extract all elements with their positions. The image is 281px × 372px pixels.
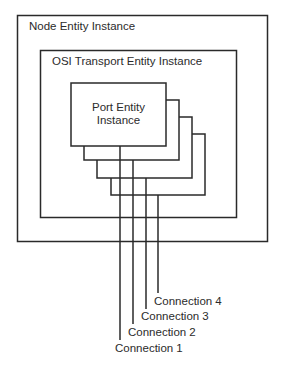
connection-label-4: Connection 4 [154, 295, 222, 307]
connection-label-2: Connection 2 [128, 326, 196, 338]
connection-label-3: Connection 3 [141, 310, 209, 322]
connection-label-1: Connection 1 [115, 342, 183, 354]
osi-transport-label: OSI Transport Entity Instance [52, 55, 202, 67]
node-entity-label: Node Entity Instance [29, 20, 135, 32]
port-entity-label-line2: Instance [71, 114, 166, 127]
port-entity-label: Port Entity Instance [71, 101, 166, 127]
port-entity-label-line1: Port Entity [71, 101, 166, 114]
